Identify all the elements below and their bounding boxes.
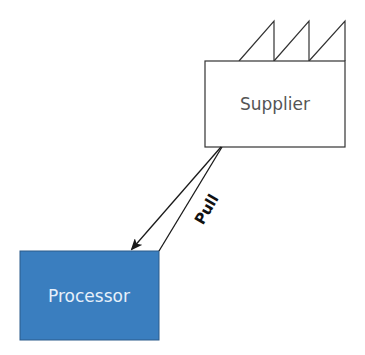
pull-edge: Pull xyxy=(132,147,222,251)
processor-label: Processor xyxy=(48,286,130,306)
factory-roof-icon xyxy=(239,21,345,61)
supplier-label: Supplier xyxy=(240,94,310,114)
pull-label: Pull xyxy=(191,191,223,228)
diagram-canvas: Supplier Processor Pull xyxy=(0,0,365,355)
processor-node: Processor xyxy=(20,251,159,340)
supplier-node: Supplier xyxy=(205,21,345,147)
